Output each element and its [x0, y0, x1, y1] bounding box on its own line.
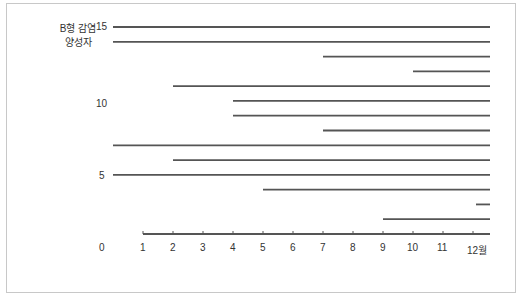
x-tick-label-11: 11 [437, 242, 447, 253]
x-tick-label-1: 1 [140, 242, 146, 253]
x-tick-label-3: 3 [200, 242, 206, 253]
x-tick-label-5: 5 [260, 242, 266, 253]
x-tick-label-4: 4 [230, 242, 236, 253]
x-tick-label-8: 8 [350, 242, 356, 253]
x-tick-label-9: 9 [380, 242, 386, 253]
x-tick-label-2: 2 [170, 242, 176, 253]
x-tick-label-7: 7 [320, 242, 326, 253]
x-tick-label-10: 10 [407, 242, 418, 253]
x-tick-label-6: 6 [290, 242, 296, 253]
x-tick-label-12: 12월 [467, 242, 487, 257]
